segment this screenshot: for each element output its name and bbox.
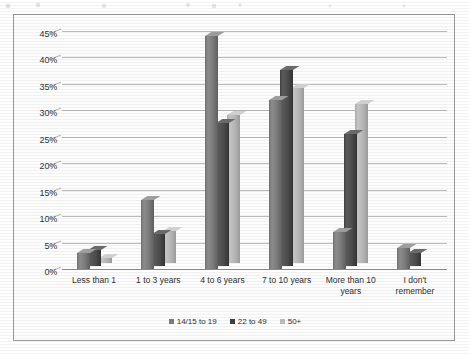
y-axis-tick-35%: 35%	[40, 82, 57, 92]
category-axis-labels: Less than 11 to 3 years4 to 6 years7 to …	[62, 275, 447, 321]
bar-face	[77, 253, 90, 269]
legend-swatch-icon-0	[169, 319, 174, 324]
y-axis-tick-40%: 40%	[40, 55, 57, 65]
chart-frame: 0%5%10%15%20%25%30%35%40%45% Less than 1…	[13, 14, 455, 341]
bar-top-face	[227, 111, 246, 115]
category-label: More than 10 years	[319, 275, 383, 321]
y-axis-tick-30%: 30%	[40, 108, 57, 118]
bar-cluster	[255, 31, 319, 269]
y-axis-tick-20%: 20%	[40, 161, 57, 171]
bar[interactable]	[141, 200, 154, 269]
gridline-0%	[62, 269, 447, 270]
bar-top-face	[280, 66, 299, 70]
bar[interactable]	[397, 248, 410, 269]
bar-cluster	[319, 31, 383, 269]
bar-face	[205, 36, 218, 269]
y-axis-tick-0%: 0%	[44, 267, 57, 277]
bar-top-face	[141, 196, 160, 200]
bar-cluster	[126, 31, 190, 269]
bar-group	[255, 31, 319, 269]
y-axis-tick-45%: 45%	[40, 29, 57, 39]
category-label: 1 to 3 years	[126, 275, 190, 321]
bar[interactable]	[269, 100, 282, 269]
legend-label-1: 22 to 49	[238, 317, 267, 326]
bar[interactable]	[205, 36, 218, 269]
category-label: 7 to 10 years	[255, 275, 319, 321]
bar-groups	[62, 31, 447, 269]
legend-label-0: 14/15 to 19	[177, 317, 217, 326]
bar[interactable]	[77, 253, 90, 269]
y-axis-tick-25%: 25%	[40, 135, 57, 145]
bar-group	[383, 31, 447, 269]
bar-cluster	[190, 31, 254, 269]
legend-item-0: 14/15 to 19	[169, 317, 217, 326]
legend-swatch-icon-2	[280, 319, 285, 324]
bar[interactable]	[333, 232, 346, 269]
bar-face	[397, 248, 410, 269]
legend-swatch-icon-1	[230, 319, 235, 324]
bar-top-face	[291, 84, 310, 88]
category-label: 4 to 6 years	[190, 275, 254, 321]
category-label: Less than 1	[62, 275, 126, 321]
y-axis-tick-10%: 10%	[40, 214, 57, 224]
bar-group	[62, 31, 126, 269]
chart-legend: 14/15 to 19 22 to 49 50+	[14, 317, 456, 326]
scan-artifact-strip	[0, 0, 469, 12]
bar-cluster	[383, 31, 447, 269]
bar-group	[190, 31, 254, 269]
bar-top-face	[99, 254, 118, 258]
legend-item-1: 22 to 49	[230, 317, 267, 326]
bar-top-face	[397, 244, 416, 248]
legend-label-2: 50+	[288, 317, 302, 326]
y-axis-tick-15%: 15%	[40, 188, 57, 198]
bar-group	[126, 31, 190, 269]
category-label: I don't remember	[383, 275, 447, 321]
bar-face	[141, 200, 154, 269]
bar-top-face	[355, 100, 374, 104]
bar-face	[269, 100, 282, 269]
bar-face	[333, 232, 346, 269]
legend-item-2: 50+	[280, 317, 302, 326]
bar-cluster	[62, 31, 126, 269]
bar-group	[319, 31, 383, 269]
plot-area: 0%5%10%15%20%25%30%35%40%45%	[62, 31, 447, 269]
y-axis-tick-5%: 5%	[44, 241, 57, 251]
bar-top-face	[205, 32, 224, 36]
bar-top-face	[408, 249, 427, 253]
